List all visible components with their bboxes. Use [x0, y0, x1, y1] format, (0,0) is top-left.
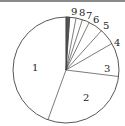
slice-label-8: 8 — [79, 8, 85, 18]
slice-label-6: 6 — [93, 15, 99, 25]
slice-label-1: 1 — [32, 63, 38, 73]
slice-label-2: 2 — [83, 93, 89, 103]
slice-label-4: 4 — [114, 38, 120, 48]
slice-label-7: 7 — [86, 11, 92, 21]
slice-label-3: 3 — [104, 64, 110, 74]
slice-label-9: 9 — [71, 7, 77, 17]
slice-label-5: 5 — [103, 21, 109, 31]
